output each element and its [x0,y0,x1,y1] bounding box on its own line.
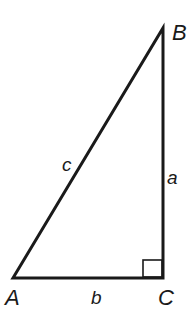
vertex-label-a: A [3,285,20,310]
vertex-label-c: C [158,285,174,310]
triangle-outline [13,28,163,278]
side-label-a: a [167,167,178,188]
right-triangle-diagram: B A C c a b [0,0,191,325]
right-angle-marker [143,260,162,277]
vertex-label-b: B [172,20,187,45]
side-label-c: c [62,154,72,175]
side-label-b: b [91,287,102,308]
